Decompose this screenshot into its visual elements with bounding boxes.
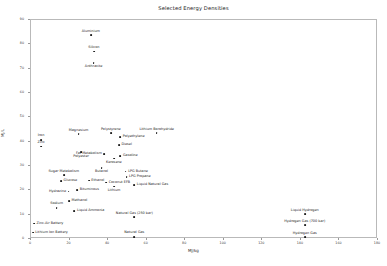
y-tick-mark	[28, 116, 30, 117]
x-tick-label: 80	[175, 241, 193, 245]
y-tick-label: 70	[6, 66, 24, 70]
x-tick-mark	[184, 238, 185, 240]
x-axis-label: MJ/kg	[0, 248, 387, 253]
x-tick-label: 180	[368, 241, 386, 245]
x-tick-label: 120	[252, 241, 270, 245]
y-tick-label: 50	[6, 114, 24, 118]
x-tick-mark	[377, 238, 378, 240]
y-tick-mark	[28, 214, 30, 215]
y-tick-mark	[28, 165, 30, 166]
y-tick-mark	[28, 141, 30, 142]
x-tick-mark	[223, 238, 224, 240]
y-tick-label: 30	[6, 163, 24, 167]
y-tick-label: 40	[6, 139, 24, 143]
y-tick-mark	[28, 189, 30, 190]
x-tick-mark	[261, 238, 262, 240]
y-tick-label: 0	[6, 236, 24, 240]
x-tick-mark	[107, 238, 108, 240]
x-tick-label: 40	[98, 241, 116, 245]
x-tick-mark	[69, 238, 70, 240]
y-tick-mark	[28, 43, 30, 44]
x-tick-mark	[300, 238, 301, 240]
y-tick-label: 90	[6, 17, 24, 21]
y-tick-label: 10	[6, 212, 24, 216]
y-tick-mark	[28, 68, 30, 69]
axes-decorations: 0102030405060708090020406080100120140160…	[0, 0, 387, 266]
x-tick-mark	[146, 238, 147, 240]
x-tick-label: 140	[291, 241, 309, 245]
x-tick-label: 20	[60, 241, 78, 245]
y-tick-mark	[28, 19, 30, 20]
chart-figure: Selected Energy Densities AluminiumSilic…	[0, 0, 387, 266]
y-axis-label: MJ/L	[0, 129, 5, 137]
x-tick-label: 60	[137, 241, 155, 245]
x-tick-label: 160	[329, 241, 347, 245]
y-tick-mark	[28, 92, 30, 93]
y-tick-label: 80	[6, 41, 24, 45]
y-tick-label: 20	[6, 187, 24, 191]
x-tick-label: 100	[214, 241, 232, 245]
y-tick-label: 60	[6, 90, 24, 94]
x-tick-label: 0	[21, 241, 39, 245]
x-tick-mark	[30, 238, 31, 240]
x-tick-mark	[338, 238, 339, 240]
